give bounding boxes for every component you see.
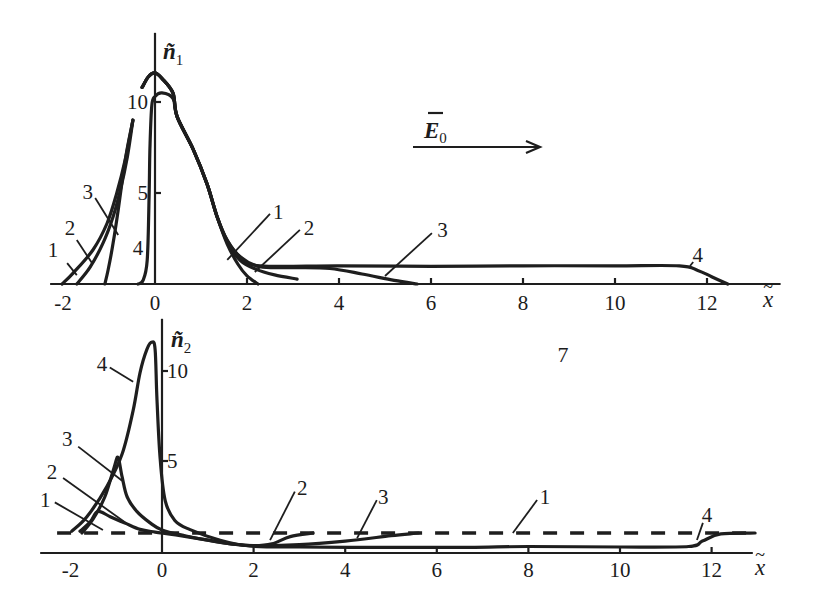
- x-tick-label: 0: [157, 558, 168, 582]
- y-axis-subscript: 1: [176, 52, 184, 68]
- curve-1: [142, 73, 258, 284]
- leader-line: [385, 233, 432, 276]
- x-tick-label: 2: [248, 558, 259, 582]
- curve-label: 2: [47, 460, 58, 484]
- x-tick-label: 10: [605, 291, 626, 315]
- curve-label: 3: [437, 218, 448, 242]
- curve-label: 2: [304, 216, 315, 240]
- field-subscript: 0: [439, 130, 447, 146]
- field-symbol: E: [423, 118, 439, 143]
- x-tick-label: 6: [426, 291, 437, 315]
- panel-n2-density: -202468101251043212314ñ2x~: [40, 319, 766, 582]
- curve-label: 2: [65, 216, 76, 240]
- curve-label: 1: [540, 485, 551, 509]
- x-tick-label: 6: [432, 558, 443, 582]
- x-tick-label: 4: [334, 291, 345, 315]
- curve-3: [142, 73, 417, 284]
- chart-canvas: -202468101251012341234ñ1x~ -202468101251…: [0, 0, 817, 616]
- field-vector-label: E0: [423, 118, 447, 146]
- curve-2: [80, 511, 313, 545]
- tilde-accent-icon: ~: [755, 545, 765, 565]
- x-tick-label: 8: [518, 291, 529, 315]
- leader-line: [513, 500, 537, 533]
- curve-label: 1: [273, 200, 284, 224]
- curve-label: 3: [378, 485, 389, 509]
- curve-label: 4: [133, 236, 144, 260]
- panel-number-label: 7: [558, 342, 569, 367]
- x-tick-label: 12: [701, 558, 722, 582]
- curve-label: 1: [48, 238, 59, 262]
- curve-label: 1: [40, 488, 51, 512]
- x-tick-label: 8: [523, 558, 534, 582]
- y-tick-label: 5: [167, 449, 178, 473]
- x-tick-label: 4: [340, 558, 351, 582]
- y-tick-label: 10: [167, 359, 188, 383]
- x-tick-label: 12: [697, 291, 718, 315]
- curve-label: 4: [693, 243, 704, 267]
- y-axis-subscript: 2: [184, 340, 192, 356]
- tilde-accent-icon: ~: [763, 277, 773, 297]
- curve-label: 3: [83, 180, 94, 204]
- x-tick-label: -2: [54, 291, 72, 315]
- leader-line: [227, 214, 270, 260]
- x-tick-label: 2: [242, 291, 253, 315]
- x-tick-label: 10: [610, 558, 631, 582]
- panel-n1-density: -202468101251012341234ñ1x~: [48, 33, 781, 315]
- curve-3: [105, 120, 133, 284]
- curve-label: 4: [97, 352, 108, 376]
- y-tick-label: 10: [127, 90, 148, 114]
- curve-label: 2: [297, 476, 308, 500]
- curve-label: 4: [702, 503, 713, 527]
- y-axis-symbol: ñ: [171, 327, 184, 352]
- leader-line: [110, 367, 133, 381]
- curve-2: [142, 73, 297, 279]
- x-tick-label: -2: [62, 558, 80, 582]
- y-axis-label: ñ1: [163, 39, 183, 68]
- y-axis-symbol: ñ: [163, 39, 176, 64]
- figure: -202468101251012341234ñ1x~ -202468101251…: [0, 0, 817, 616]
- field-vector-annotation: E0: [413, 113, 540, 153]
- x-tick-label: 0: [150, 291, 161, 315]
- curve-label: 3: [62, 427, 73, 451]
- y-axis-label: ñ2: [171, 327, 191, 356]
- y-tick-label: 5: [138, 181, 149, 205]
